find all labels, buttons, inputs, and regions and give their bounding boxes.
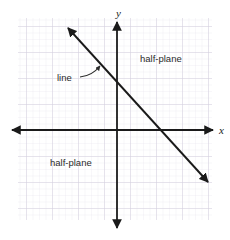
half-plane-lower-label: half-plane [50, 157, 92, 168]
x-axis-label: x [218, 124, 224, 136]
coordinate-plane-svg: y x line half-plane half-plane [0, 0, 230, 240]
grid-background [18, 18, 212, 220]
line-callout-label: line [57, 72, 72, 83]
y-axis-label: y [115, 7, 121, 19]
graph-figure: y x line half-plane half-plane [0, 0, 230, 240]
half-plane-upper-label: half-plane [140, 53, 182, 64]
